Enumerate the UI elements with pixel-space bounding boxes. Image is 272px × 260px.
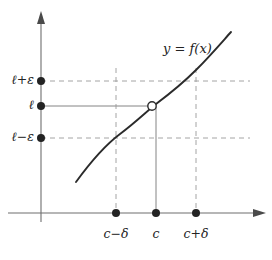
- curve-label: y = f(x): [163, 42, 212, 55]
- limit-definition-figure: ℓ+ε ℓ ℓ−ε c−δ c c+δ y = f(x): [0, 0, 272, 260]
- x-point-c: [152, 209, 160, 217]
- figure-canvas: [0, 0, 272, 260]
- x-point-c-minus-delta: [112, 209, 120, 217]
- y-axis-label-l-minus-epsilon: ℓ−ε: [12, 131, 34, 144]
- open-point-marker: [148, 102, 156, 110]
- x-axis-label-c-minus-delta: c−δ: [94, 228, 138, 241]
- y-point-l-plus-epsilon: [37, 77, 45, 85]
- y-axis-label-l-plus-epsilon: ℓ+ε: [12, 74, 34, 87]
- x-axis-label-c: c: [140, 228, 172, 241]
- y-axis-label-l: ℓ: [29, 99, 34, 112]
- y-axis-arrowhead: [37, 11, 45, 24]
- y-point-l-minus-epsilon: [37, 134, 45, 142]
- x-axis-arrowhead: [253, 209, 266, 217]
- y-point-l: [37, 102, 45, 110]
- x-axis-label-c-plus-delta: c+δ: [174, 228, 218, 241]
- x-point-c-plus-delta: [192, 209, 200, 217]
